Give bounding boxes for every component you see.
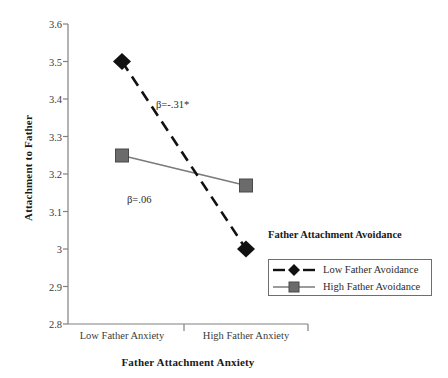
series-line-high: [122, 156, 246, 186]
legend-title: Father Attachment Avoidance: [268, 229, 402, 240]
plot-area: [0, 0, 448, 378]
data-point-marker-square: [240, 179, 253, 192]
data-point-marker-diamond: [113, 53, 131, 70]
chart-figure: Attachment to Father 3.6 3.5 3.4 3.3 3.2…: [0, 0, 448, 378]
legend-label-low: Low Father Avoidance: [321, 264, 418, 275]
legend-item-low-father-avoidance[interactable]: Low Father Avoidance: [269, 261, 433, 278]
data-point-marker-square: [116, 149, 129, 162]
legend-swatch-dashed-diamond: [269, 262, 321, 278]
legend-swatch-solid-square: [269, 279, 321, 295]
annotation-beta-dashed: β=-.31*: [156, 99, 189, 110]
series-low-father-avoidance: [113, 53, 255, 258]
x-axis-ticks: [184, 324, 308, 331]
y-axis-ticks: [63, 24, 68, 324]
series-line-low: [122, 62, 246, 250]
data-point-marker-diamond: [237, 241, 255, 258]
legend-box: Low Father Avoidance High Father Avoidan…: [268, 259, 432, 296]
legend-item-high-father-avoidance[interactable]: High Father Avoidance: [269, 278, 433, 295]
annotation-beta-solid: β=.06: [127, 194, 151, 205]
legend-label-high: High Father Avoidance: [321, 281, 420, 292]
